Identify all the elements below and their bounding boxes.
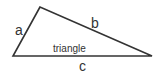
triangle-name-label: triangle <box>53 43 86 54</box>
side-b-label: b <box>91 15 99 31</box>
side-c-label: c <box>79 58 86 74</box>
side-a-label: a <box>15 22 23 38</box>
triangle-diagram: a b c triangle <box>0 0 162 76</box>
